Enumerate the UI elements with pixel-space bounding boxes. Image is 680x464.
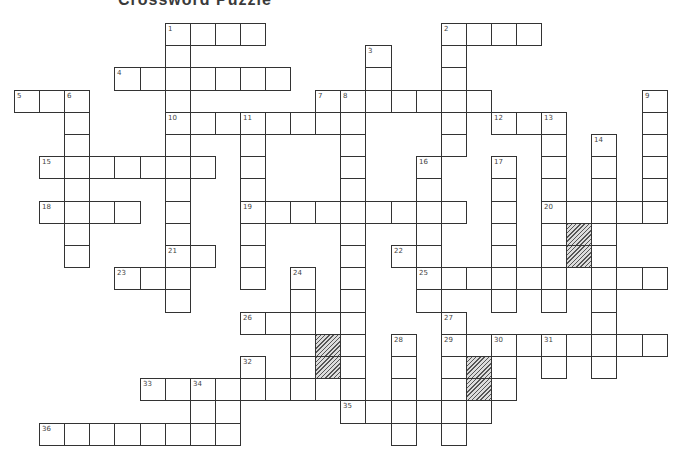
- grid-cell[interactable]: [340, 267, 366, 290]
- grid-cell[interactable]: [265, 112, 291, 135]
- grid-cell[interactable]: [365, 67, 392, 91]
- grid-cell[interactable]: [416, 201, 442, 224]
- grid-cell[interactable]: 14: [591, 134, 617, 157]
- grid-cell[interactable]: 12: [491, 112, 517, 135]
- grid-cell[interactable]: [89, 201, 115, 224]
- grid-cell[interactable]: [616, 201, 643, 224]
- grid-cell[interactable]: 29: [441, 334, 467, 357]
- grid-cell[interactable]: [165, 134, 191, 157]
- grid-cell[interactable]: [265, 201, 291, 224]
- grid-cell[interactable]: [215, 400, 241, 424]
- grid-cell[interactable]: 8: [340, 90, 366, 113]
- grid-cell[interactable]: [591, 223, 617, 246]
- grid-cell[interactable]: [89, 423, 115, 446]
- grid-cell[interactable]: [541, 223, 567, 246]
- grid-cell[interactable]: [315, 201, 341, 224]
- grid-cell[interactable]: [190, 245, 216, 268]
- grid-cell[interactable]: [441, 356, 467, 379]
- grid-cell[interactable]: 18: [39, 201, 65, 224]
- grid-cell[interactable]: [315, 378, 341, 401]
- grid-cell[interactable]: [616, 267, 643, 290]
- grid-cell[interactable]: [165, 223, 191, 246]
- grid-cell[interactable]: 2: [441, 23, 467, 46]
- grid-cell[interactable]: [64, 112, 90, 135]
- grid-cell[interactable]: [441, 134, 467, 157]
- grid-cell[interactable]: [165, 90, 191, 113]
- grid-cell[interactable]: [642, 267, 668, 290]
- grid-cell[interactable]: [140, 267, 166, 290]
- grid-cell[interactable]: [466, 267, 492, 290]
- grid-cell[interactable]: [215, 67, 241, 91]
- grid-cell[interactable]: [240, 156, 266, 179]
- grid-cell[interactable]: [491, 201, 517, 224]
- grid-cell[interactable]: [491, 23, 517, 46]
- grid-cell[interactable]: [315, 312, 341, 335]
- grid-cell[interactable]: [642, 156, 668, 179]
- grid-cell[interactable]: [290, 378, 316, 401]
- grid-cell[interactable]: [190, 67, 216, 91]
- grid-cell[interactable]: [591, 245, 617, 268]
- grid-cell[interactable]: [616, 334, 643, 357]
- grid-cell[interactable]: [541, 245, 567, 268]
- grid-cell[interactable]: [516, 334, 542, 357]
- grid-cell[interactable]: [391, 90, 417, 113]
- grid-cell[interactable]: [365, 201, 392, 224]
- grid-cell[interactable]: [165, 423, 191, 446]
- grid-cell[interactable]: 26: [240, 312, 266, 335]
- grid-cell[interactable]: [64, 156, 90, 179]
- grid-cell[interactable]: [290, 334, 316, 357]
- grid-cell[interactable]: [215, 23, 241, 46]
- grid-cell[interactable]: [114, 156, 141, 179]
- grid-cell[interactable]: [642, 201, 668, 224]
- grid-cell[interactable]: [240, 67, 266, 91]
- grid-cell[interactable]: [265, 67, 291, 91]
- grid-cell[interactable]: [391, 356, 417, 379]
- grid-cell[interactable]: [240, 378, 266, 401]
- grid-cell[interactable]: [491, 223, 517, 246]
- grid-cell[interactable]: 27: [441, 312, 467, 335]
- grid-cell[interactable]: [340, 378, 366, 401]
- grid-cell[interactable]: [140, 423, 166, 446]
- grid-cell[interactable]: [491, 356, 517, 379]
- grid-cell[interactable]: [642, 178, 668, 202]
- grid-cell[interactable]: [466, 23, 492, 46]
- grid-cell[interactable]: [114, 423, 141, 446]
- grid-cell[interactable]: [340, 201, 366, 224]
- grid-cell[interactable]: [114, 201, 141, 224]
- grid-cell[interactable]: 7: [315, 90, 341, 113]
- grid-cell[interactable]: [340, 356, 366, 379]
- grid-cell[interactable]: 35: [340, 400, 366, 424]
- grid-cell[interactable]: [541, 178, 567, 202]
- grid-cell[interactable]: [491, 267, 517, 290]
- grid-cell[interactable]: [591, 356, 617, 379]
- grid-cell[interactable]: [315, 112, 341, 135]
- grid-cell[interactable]: [165, 178, 191, 202]
- grid-cell[interactable]: 17: [491, 156, 517, 179]
- grid-cell[interactable]: [340, 223, 366, 246]
- grid-cell[interactable]: [290, 356, 316, 379]
- grid-cell[interactable]: [391, 400, 417, 424]
- grid-cell[interactable]: [441, 67, 467, 91]
- grid-cell[interactable]: [165, 156, 191, 179]
- grid-cell[interactable]: [165, 67, 191, 91]
- grid-cell[interactable]: [39, 90, 65, 113]
- grid-cell[interactable]: 31: [541, 334, 567, 357]
- grid-cell[interactable]: [290, 112, 316, 135]
- grid-cell[interactable]: [416, 178, 442, 202]
- grid-cell[interactable]: [416, 245, 442, 268]
- grid-cell[interactable]: [140, 67, 166, 91]
- grid-cell[interactable]: [441, 201, 467, 224]
- grid-cell[interactable]: [441, 45, 467, 68]
- grid-cell[interactable]: [391, 201, 417, 224]
- grid-cell[interactable]: [541, 134, 567, 157]
- grid-cell[interactable]: [190, 112, 216, 135]
- grid-cell[interactable]: 21: [165, 245, 191, 268]
- grid-cell[interactable]: [240, 223, 266, 246]
- grid-cell[interactable]: [290, 312, 316, 335]
- grid-cell[interactable]: [215, 378, 241, 401]
- grid-cell[interactable]: 20: [541, 201, 567, 224]
- grid-cell[interactable]: [340, 245, 366, 268]
- grid-cell[interactable]: 22: [391, 245, 417, 268]
- grid-cell[interactable]: [441, 400, 467, 424]
- grid-cell[interactable]: [190, 400, 216, 424]
